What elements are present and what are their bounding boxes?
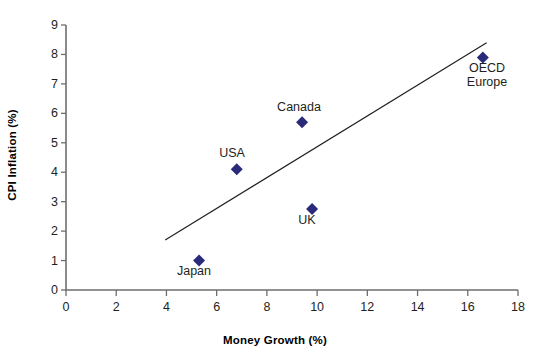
y-tick-label-8: 8 <box>44 47 58 61</box>
y-tick-label-5: 5 <box>44 136 58 150</box>
y-tick-label-0: 0 <box>44 283 58 297</box>
x-tick-label-14: 14 <box>411 300 425 314</box>
x-tick-label-8: 8 <box>263 300 270 314</box>
point-label-canada: Canada <box>277 100 321 114</box>
trendline <box>165 43 486 240</box>
trendline-path <box>165 43 486 240</box>
y-tick-label-2: 2 <box>44 224 58 238</box>
x-axis-title: Money Growth (%) <box>223 334 327 346</box>
y-tick-label-4: 4 <box>44 165 58 179</box>
point-label-oecd-line1: OECD <box>469 61 505 75</box>
y-tick-label-9: 9 <box>44 18 58 32</box>
point-label-japan: Japan <box>177 264 211 278</box>
x-tick-label-6: 6 <box>213 300 220 314</box>
point-label-oecd-europe: OECD Europe <box>467 61 507 89</box>
x-tick-label-12: 12 <box>360 300 374 314</box>
x-tick-label-4: 4 <box>163 300 170 314</box>
data-point-usa <box>231 163 243 175</box>
y-tick-label-6: 6 <box>44 106 58 120</box>
y-axis-title: CPI Inflation (%) <box>6 109 18 201</box>
x-tick-label-10: 10 <box>310 300 324 314</box>
point-label-oecd-line2: Europe <box>467 75 507 89</box>
y-tick-label-3: 3 <box>44 195 58 209</box>
data-point-canada <box>296 116 308 128</box>
point-label-usa: USA <box>219 146 245 160</box>
x-tick-label-16: 16 <box>461 300 475 314</box>
point-label-uk: UK <box>298 213 315 227</box>
x-tick-label-18: 18 <box>511 300 525 314</box>
x-tick-label-0: 0 <box>63 300 70 314</box>
x-tick-label-2: 2 <box>113 300 120 314</box>
scatter-chart: 9 8 7 6 5 4 3 2 1 0 0 2 4 6 8 10 12 14 1… <box>0 0 538 362</box>
y-tick-label-1: 1 <box>44 254 58 268</box>
y-tick-label-7: 7 <box>44 77 58 91</box>
